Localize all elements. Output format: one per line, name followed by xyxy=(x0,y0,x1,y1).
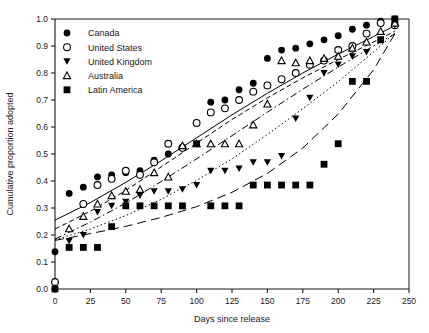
data-point-australia xyxy=(136,186,143,193)
data-point-australia xyxy=(264,100,271,107)
data-point-canada xyxy=(363,22,370,29)
data-point-united-states xyxy=(151,159,158,166)
data-point-united-kingdom xyxy=(207,168,214,175)
data-point-australia xyxy=(250,121,257,128)
data-point-united-states xyxy=(108,175,115,182)
legend-label-canada: Canada xyxy=(88,28,120,38)
chart-figure: 0.00.10.20.30.40.50.60.70.80.91.00255075… xyxy=(0,0,429,333)
data-point-latin-america xyxy=(137,202,144,209)
data-point-united-states xyxy=(165,140,172,147)
data-point-united-kingdom xyxy=(264,159,271,166)
data-point-united-kingdom xyxy=(80,232,87,239)
data-point-latin-america xyxy=(292,182,299,189)
data-point-united-kingdom xyxy=(278,153,285,160)
fit-curve-solid xyxy=(55,26,395,220)
y-tick-label: 0.7 xyxy=(36,95,48,105)
data-point-latin-america xyxy=(207,202,214,209)
data-point-australia xyxy=(235,140,242,147)
data-point-australia xyxy=(165,173,172,180)
data-point-united-kingdom xyxy=(306,95,313,102)
legend-marker-canada xyxy=(64,30,71,37)
data-point-australia xyxy=(292,59,299,66)
y-tick-label: 0.2 xyxy=(36,230,48,240)
legend-label-australia: Australia xyxy=(88,71,123,81)
data-point-latin-america xyxy=(122,202,129,209)
data-point-australia xyxy=(207,140,214,147)
data-point-united-kingdom xyxy=(320,70,327,77)
y-tick-label: 1.0 xyxy=(36,14,48,24)
data-point-australia xyxy=(278,57,285,64)
data-point-latin-america xyxy=(52,286,59,293)
data-point-australia xyxy=(221,140,228,147)
data-point-latin-america xyxy=(193,140,200,147)
data-point-canada xyxy=(207,99,214,106)
data-point-latin-america xyxy=(236,202,243,209)
data-point-united-kingdom xyxy=(193,182,200,189)
y-tick-label: 0.8 xyxy=(36,68,48,78)
legend-marker-united-kingdom xyxy=(63,58,70,65)
legend-label-latin-america: Latin America xyxy=(88,85,143,95)
x-tick-label: 25 xyxy=(86,296,96,306)
legend-label-united-states: United States xyxy=(88,43,143,53)
data-point-united-kingdom xyxy=(250,159,257,166)
data-point-united-states xyxy=(363,30,370,37)
data-point-united-kingdom xyxy=(94,209,101,216)
data-point-united-states xyxy=(264,82,271,89)
data-point-canada xyxy=(292,45,299,52)
data-point-latin-america xyxy=(80,244,87,251)
data-point-canada xyxy=(165,151,172,158)
data-point-canada xyxy=(250,80,257,87)
data-point-latin-america xyxy=(108,223,115,230)
y-axis-title: Cumulative proportion adopted xyxy=(5,92,15,215)
data-point-australia xyxy=(151,169,158,176)
y-tick-label: 0.5 xyxy=(36,149,48,159)
data-point-australia xyxy=(66,225,73,232)
y-tick-label: 0.6 xyxy=(36,122,48,132)
data-point-united-kingdom xyxy=(335,62,342,69)
data-point-latin-america xyxy=(278,182,285,189)
data-point-latin-america xyxy=(264,182,271,189)
data-point-latin-america xyxy=(179,202,186,209)
data-point-canada xyxy=(80,184,87,191)
data-point-united-kingdom xyxy=(221,168,228,175)
data-point-latin-america xyxy=(349,78,356,85)
data-point-united-states xyxy=(137,171,144,178)
data-point-latin-america xyxy=(66,244,73,251)
y-tick-label: 0.1 xyxy=(36,257,48,267)
data-point-canada xyxy=(264,55,271,62)
data-point-united-states xyxy=(94,182,101,189)
x-tick-label: 100 xyxy=(190,296,204,306)
y-tick-label: 0.9 xyxy=(36,41,48,51)
data-point-latin-america xyxy=(335,140,342,147)
data-point-latin-america xyxy=(151,202,158,209)
data-point-united-states xyxy=(377,20,384,27)
data-point-latin-america xyxy=(377,36,384,43)
x-tick-label: 250 xyxy=(402,296,416,306)
data-point-canada xyxy=(321,36,328,43)
data-point-canada xyxy=(236,86,243,93)
data-point-united-kingdom xyxy=(179,186,186,193)
y-tick-label: 0.0 xyxy=(36,284,48,294)
legend-marker-australia xyxy=(63,72,70,79)
y-tick-label: 0.4 xyxy=(36,176,48,186)
data-point-united-states xyxy=(193,120,200,127)
data-point-united-kingdom xyxy=(108,203,115,210)
x-tick-label: 125 xyxy=(225,296,239,306)
legend-label-united-kingdom: United Kingdom xyxy=(88,57,152,67)
data-point-canada xyxy=(94,174,101,181)
data-point-united-states xyxy=(236,97,243,104)
data-point-united-kingdom xyxy=(292,116,299,123)
data-point-united-states xyxy=(207,109,214,116)
x-tick-label: 75 xyxy=(156,296,166,306)
legend-marker-latin-america xyxy=(64,86,71,93)
x-tick-label: 225 xyxy=(367,296,381,306)
x-tick-label: 175 xyxy=(296,296,310,306)
data-point-latin-america xyxy=(306,182,313,189)
data-point-canada xyxy=(335,32,342,39)
data-point-latin-america xyxy=(363,78,370,85)
data-point-united-states xyxy=(278,76,285,83)
data-point-latin-america xyxy=(391,16,398,23)
data-point-latin-america xyxy=(222,202,229,209)
data-point-australia xyxy=(306,57,313,64)
data-point-united-kingdom xyxy=(66,238,73,245)
